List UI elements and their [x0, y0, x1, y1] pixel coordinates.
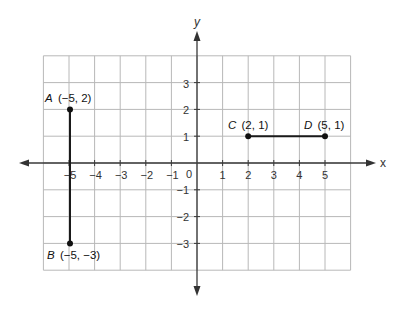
y-axis-down-arrow-icon	[194, 286, 201, 296]
y-axis: y	[193, 15, 201, 296]
y-tick-label: −2	[176, 211, 189, 223]
x-tick-labels: −5 −4 −3 −2 −1 0 1 2 3 4 5	[64, 168, 328, 181]
point-b-name: B	[47, 249, 55, 261]
x-tick-label: −2	[141, 169, 154, 181]
point-a-label: A (−5, 2)	[44, 92, 92, 104]
point-d-name: D	[304, 119, 312, 131]
y-tick-label: 1	[183, 131, 189, 143]
x-tick-label: 3	[271, 169, 277, 181]
point-a	[67, 106, 73, 112]
point-b	[67, 240, 73, 246]
x-tick-label: −4	[89, 169, 102, 181]
y-tick-label: −3	[176, 238, 189, 250]
x-axis-left-arrow-icon	[19, 160, 29, 167]
origin-label: 0	[186, 168, 192, 180]
x-tick-label: 1	[220, 169, 226, 181]
coordinate-plane: x y −5 −4 −3 −2 −1 0 1 2 3 4 5 3 2 1 −1 …	[0, 0, 402, 310]
x-tick-label: 4	[296, 169, 302, 181]
x-axis-right-arrow-icon	[366, 160, 376, 167]
x-axis: x	[19, 156, 386, 170]
point-a-name: A	[44, 92, 53, 104]
point-c-name: C	[228, 119, 237, 131]
x-tick-label: −1	[166, 169, 179, 181]
point-a-coords: (−5, 2)	[58, 92, 92, 104]
point-d-label: D (5, 1)	[304, 119, 345, 131]
point-d	[322, 133, 328, 139]
point-c-label: C (2, 1)	[228, 119, 269, 131]
point-b-coords: (−5, −3)	[60, 249, 100, 261]
x-tick-label: 2	[245, 169, 251, 181]
x-axis-label: x	[380, 156, 386, 170]
x-tick-label: 5	[322, 169, 328, 181]
point-c	[245, 133, 251, 139]
x-tick-label: −3	[115, 169, 128, 181]
y-tick-label: −1	[176, 184, 189, 196]
y-axis-label: y	[193, 15, 201, 29]
point-b-label: B (−5, −3)	[47, 249, 100, 261]
y-tick-label: 2	[183, 104, 189, 116]
point-d-coords: (5, 1)	[318, 119, 345, 131]
point-c-coords: (2, 1)	[242, 119, 269, 131]
y-tick-label: 3	[183, 78, 189, 90]
y-axis-up-arrow-icon	[194, 31, 201, 41]
